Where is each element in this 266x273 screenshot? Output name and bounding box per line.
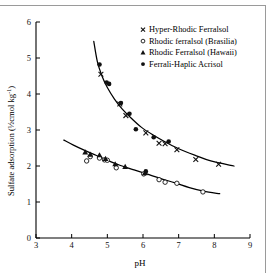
figure-container: 01234563456789 Hyper-Rhodic FerralsolRho… bbox=[0, 0, 266, 273]
data-point-cross bbox=[157, 141, 162, 146]
y-tick-label: 5 bbox=[27, 53, 31, 63]
legend-marker-filled-circle bbox=[141, 62, 145, 66]
y-tick-label: 2 bbox=[27, 161, 31, 171]
y-tick-label: 4 bbox=[27, 89, 32, 99]
data-point-filled-circle bbox=[107, 82, 112, 87]
data-point-filled-circle bbox=[144, 169, 149, 174]
series-3-markers bbox=[97, 62, 171, 174]
y-tick-label: 1 bbox=[27, 197, 31, 207]
data-point-filled-circle bbox=[134, 127, 139, 132]
legend-label: Rhodic ferralsol (Brasilia) bbox=[149, 37, 237, 46]
x-tick-label: 8 bbox=[212, 240, 216, 250]
data-point-open-circle bbox=[84, 159, 88, 163]
data-point-filled-circle bbox=[127, 112, 132, 117]
y-axis-title-text: Sulfate adsorption (½cmol kg-1) bbox=[6, 86, 16, 196]
data-point-filled-circle bbox=[151, 135, 156, 140]
y-axis-title: Sulfate adsorption (½cmol kg-1) bbox=[6, 86, 16, 196]
data-point-open-circle bbox=[157, 177, 161, 181]
legend-label: Hyper-Rhodic Ferralsol bbox=[149, 25, 229, 34]
series-0-markers bbox=[99, 72, 222, 167]
data-point-cross bbox=[143, 130, 148, 135]
data-point-cross bbox=[193, 157, 198, 162]
data-point-triangle bbox=[97, 152, 103, 157]
data-markers-group bbox=[82, 62, 221, 194]
x-axis-title-text: pH bbox=[135, 258, 147, 268]
data-point-open-circle bbox=[175, 181, 179, 185]
data-point-open-circle bbox=[163, 180, 167, 184]
x-tick-label: 7 bbox=[177, 240, 181, 250]
legend-marker-open-circle bbox=[141, 39, 145, 43]
data-point-filled-circle bbox=[166, 139, 171, 144]
data-point-open-circle bbox=[201, 190, 205, 194]
x-tick-label: 4 bbox=[70, 240, 75, 250]
fitted-curve-lower-fit bbox=[64, 140, 220, 194]
x-tick-label: 5 bbox=[105, 240, 109, 250]
y-tick-label: 6 bbox=[27, 17, 31, 27]
x-tick-label: 9 bbox=[248, 240, 252, 250]
data-point-filled-circle bbox=[97, 62, 102, 67]
legend-marker-cross bbox=[141, 28, 145, 32]
chart-legend: Hyper-Rhodic FerralsolRhodic ferralsol (… bbox=[141, 25, 238, 69]
x-tick-label: 3 bbox=[34, 240, 38, 250]
legend-label: Rhodic Ferralsol (Hawaii) bbox=[149, 48, 237, 57]
data-point-filled-circle bbox=[119, 101, 124, 106]
legend-label: Ferrali-Haplic Acrisol bbox=[149, 60, 223, 69]
x-tick-label: 6 bbox=[141, 240, 145, 250]
y-tick-label: 3 bbox=[27, 125, 31, 135]
legend-marker-triangle bbox=[141, 50, 146, 54]
y-tick-label: 0 bbox=[27, 233, 31, 243]
sulfate-adsorption-ph-chart: 01234563456789 Hyper-Rhodic FerralsolRho… bbox=[0, 0, 266, 273]
